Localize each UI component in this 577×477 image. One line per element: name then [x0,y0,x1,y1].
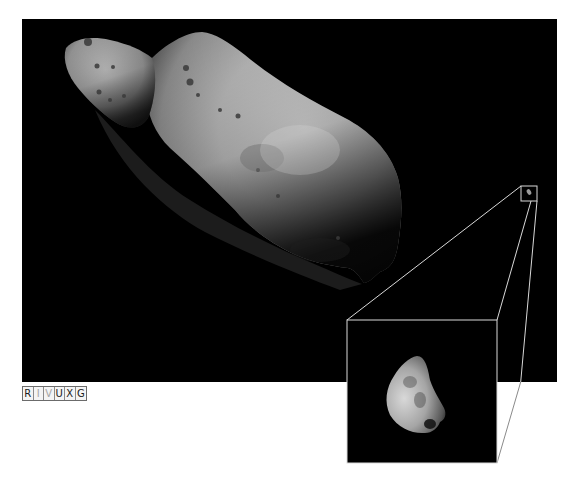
astronomy-figure: R I V U X G [0,0,577,477]
main-asteroid [65,32,402,290]
figure-graphics [0,0,577,477]
filter-cell-x: X [65,387,76,400]
inset-moon-image [347,320,497,463]
filter-cell-g: G [76,387,87,400]
filter-cell-u: U [55,387,66,400]
wavelength-filter-strip: R I V U X G [22,386,87,401]
filter-cell-i: I [34,387,45,400]
zoom-box [521,186,537,201]
filter-cell-v: V [44,387,55,400]
filter-cell-r: R [23,387,34,400]
